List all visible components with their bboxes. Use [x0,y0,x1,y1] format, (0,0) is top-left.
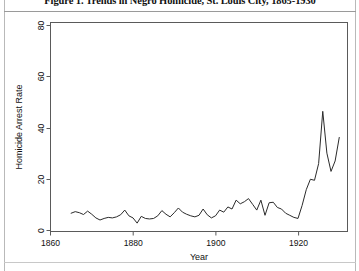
chart-svg: 80 60 40 20 0 Homicide Arrest Rate 1860 … [0,0,359,271]
y-tick-label-60: 60 [36,72,46,82]
x-tick-label-1920: 1920 [289,238,308,248]
figure-page: Figure 1. Trends in Negro Homicide, St. … [0,0,359,271]
plot-frame [51,23,348,232]
x-axis-title: Year [190,252,208,262]
x-axis-ticks [51,232,299,236]
y-tick-label-40: 40 [36,124,46,134]
y-tick-label-20: 20 [36,175,46,185]
y-tick-label-80: 80 [36,21,46,31]
y-tick-label-0: 0 [36,228,46,233]
x-tick-label-1880: 1880 [124,238,143,248]
y-axis-title: Homicide Arrest Rate [14,84,24,169]
y-axis-ticks [47,26,51,231]
x-tick-label-1860: 1860 [41,238,60,248]
x-tick-label-1900: 1900 [206,238,225,248]
homicide-rate-line [71,111,339,223]
line-chart: 80 60 40 20 0 Homicide Arrest Rate 1860 … [0,0,359,271]
